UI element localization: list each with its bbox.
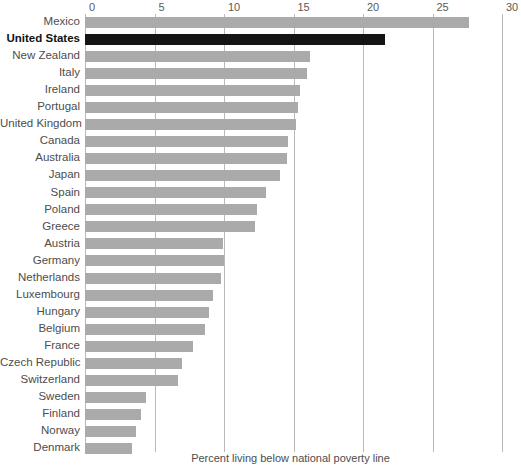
bar-row bbox=[85, 202, 502, 219]
tick-label-30: 30 bbox=[502, 1, 518, 13]
category-label-austria: Austria bbox=[0, 235, 80, 252]
bar-united-kingdom bbox=[85, 119, 296, 130]
category-axis-labels: MexicoUnited StatesNew ZealandItalyIrela… bbox=[0, 14, 80, 452]
category-label-belgium: Belgium bbox=[0, 320, 80, 337]
bar-belgium bbox=[85, 324, 205, 335]
bar-row bbox=[85, 321, 502, 338]
tick-label-0: 0 bbox=[85, 1, 95, 13]
category-label-france: France bbox=[0, 337, 80, 354]
bar-row bbox=[85, 287, 502, 304]
bar-poland bbox=[85, 204, 257, 215]
bar-ireland bbox=[85, 85, 300, 96]
bar-row bbox=[85, 304, 502, 321]
plot-area: 051015202530 bbox=[85, 14, 502, 452]
bar-row bbox=[85, 150, 502, 167]
bar-norway bbox=[85, 426, 136, 437]
bar-row bbox=[85, 372, 502, 389]
category-label-mexico: Mexico bbox=[0, 13, 80, 30]
category-label-luxembourg: Luxembourg bbox=[0, 286, 80, 303]
bar-hungary bbox=[85, 307, 209, 318]
category-label-switzerland: Switzerland bbox=[0, 371, 80, 388]
category-label-norway: Norway bbox=[0, 422, 80, 439]
tick-label-15: 15 bbox=[294, 1, 310, 13]
category-label-spain: Spain bbox=[0, 184, 80, 201]
bar-austria bbox=[85, 238, 223, 249]
bar-row bbox=[85, 423, 502, 440]
category-label-united-kingdom: United Kingdom bbox=[0, 115, 80, 132]
bar-netherlands bbox=[85, 273, 221, 284]
category-label-italy: Italy bbox=[0, 64, 80, 81]
category-label-portugal: Portugal bbox=[0, 98, 80, 115]
bar-row bbox=[85, 31, 502, 48]
bar-row bbox=[85, 338, 502, 355]
bar-finland bbox=[85, 409, 141, 420]
bar-greece bbox=[85, 221, 255, 232]
category-label-ireland: Ireland bbox=[0, 81, 80, 98]
category-label-finland: Finland bbox=[0, 405, 80, 422]
category-label-new-zealand: New Zealand bbox=[0, 47, 80, 64]
bar-australia bbox=[85, 153, 287, 164]
tick-label-5: 5 bbox=[155, 1, 165, 13]
category-label-australia: Australia bbox=[0, 149, 80, 166]
category-label-germany: Germany bbox=[0, 252, 80, 269]
bar-row bbox=[85, 253, 502, 270]
bar-row bbox=[85, 270, 502, 287]
bar-switzerland bbox=[85, 375, 178, 386]
bar-canada bbox=[85, 136, 288, 147]
bar-united-states bbox=[85, 34, 385, 45]
bar-row bbox=[85, 167, 502, 184]
category-label-united-states: United States bbox=[0, 30, 80, 47]
bar-row bbox=[85, 14, 502, 31]
bar-row bbox=[85, 99, 502, 116]
category-label-netherlands: Netherlands bbox=[0, 269, 80, 286]
category-label-sweden: Sweden bbox=[0, 388, 80, 405]
bar-portugal bbox=[85, 102, 298, 113]
tick-label-25: 25 bbox=[433, 1, 449, 13]
bar-italy bbox=[85, 68, 307, 79]
bar-new-zealand bbox=[85, 51, 310, 62]
bar-row bbox=[85, 389, 502, 406]
bar-row bbox=[85, 116, 502, 133]
poverty-rate-bar-chart: MexicoUnited StatesNew ZealandItalyIrela… bbox=[0, 0, 521, 470]
bar-row bbox=[85, 185, 502, 202]
bar-czech-republic bbox=[85, 358, 182, 369]
tick-label-10: 10 bbox=[224, 1, 240, 13]
bar-row bbox=[85, 355, 502, 372]
bar-row bbox=[85, 133, 502, 150]
bar-row bbox=[85, 219, 502, 236]
bar-row bbox=[85, 82, 502, 99]
bar-row bbox=[85, 236, 502, 253]
tick-label-20: 20 bbox=[363, 1, 379, 13]
bar-japan bbox=[85, 170, 280, 181]
category-label-greece: Greece bbox=[0, 218, 80, 235]
category-label-canada: Canada bbox=[0, 132, 80, 149]
axis-caption: Percent living below national poverty li… bbox=[0, 452, 521, 464]
bar-row bbox=[85, 406, 502, 423]
category-label-poland: Poland bbox=[0, 201, 80, 218]
bar-spain bbox=[85, 187, 266, 198]
category-label-czech-republic: Czech Republic bbox=[0, 354, 80, 371]
bar-row bbox=[85, 48, 502, 65]
gridline-30 bbox=[502, 14, 503, 452]
bar-germany bbox=[85, 255, 224, 266]
bar-mexico bbox=[85, 17, 469, 28]
bar-luxembourg bbox=[85, 290, 213, 301]
bar-row bbox=[85, 65, 502, 82]
bar-france bbox=[85, 341, 193, 352]
category-label-hungary: Hungary bbox=[0, 303, 80, 320]
bar-sweden bbox=[85, 392, 146, 403]
category-label-japan: Japan bbox=[0, 166, 80, 183]
